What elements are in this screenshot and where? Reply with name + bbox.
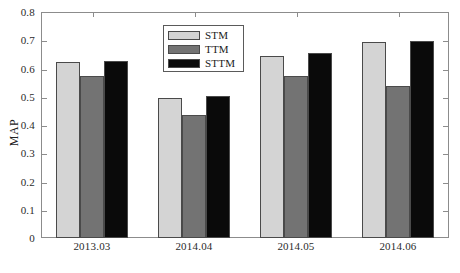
bar-stm-2014.05 [260,56,284,238]
legend-item-stm: STM [168,29,239,42]
y-axis-tick-label: 0.5 [21,91,35,103]
legend-label: STTM [205,58,235,69]
bar-ttm-2014.04 [182,115,206,238]
bar-stm-2013.03 [56,62,80,238]
y-axis-tick-label: 0.4 [21,119,35,131]
x-axis-tick-labels: 2013.032014.042014.052014.06 [41,240,449,260]
legend-item-ttm: TTM [168,43,239,56]
bar-sttm-2014.04 [206,96,230,238]
y-axis-tick-label: 0 [29,232,35,244]
y-axis-tick-label: 0.1 [21,204,35,216]
bar-ttm-2014.05 [284,76,308,238]
y-axis-tick-label: 0.2 [21,176,35,188]
legend-item-sttm: STTM [168,57,239,70]
bar-sttm-2013.03 [104,61,128,238]
x-axis-tick-label: 2014.06 [379,240,416,252]
bar-ttm-2014.06 [386,86,410,238]
bar-series-layer [41,12,449,238]
bar-sttm-2014.05 [308,53,332,238]
y-axis-tick-label: 0.6 [21,63,35,75]
legend-swatch-icon [168,59,200,68]
x-axis-tick-label: 2013.03 [73,240,110,252]
legend-swatch-icon [168,31,200,40]
legend-label: TTM [205,44,229,55]
bar-stm-2014.04 [158,98,182,238]
x-axis-tick-label: 2014.05 [277,240,314,252]
x-axis-tick-label: 2014.04 [175,240,212,252]
chart-canvas: 00.10.20.30.40.50.60.70.8 MAP 2013.03201… [0,0,460,273]
bar-ttm-2013.03 [80,76,104,238]
legend-swatch-icon [168,45,200,54]
y-axis-tick-label: 0.8 [21,6,35,18]
bar-sttm-2014.06 [410,41,434,238]
bar-stm-2014.06 [362,42,386,238]
y-axis-tick-label: 0.7 [21,34,35,46]
y-axis-tick-label: 0.3 [21,147,35,159]
y-axis-title: MAP [7,113,22,153]
legend: STMTTMSTTM [163,25,244,72]
legend-label: STM [205,30,228,41]
